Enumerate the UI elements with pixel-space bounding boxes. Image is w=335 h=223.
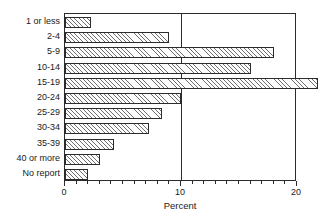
bar-row [65,78,318,89]
category-label: 20-24 [0,92,60,103]
category-label: 30-34 [0,122,60,133]
bar-row [65,32,169,43]
axis-tick-minor [192,181,193,184]
category-label: 10-14 [0,62,60,73]
bar-row [65,123,149,134]
axis-tick-minor [284,181,285,184]
bar [65,139,114,150]
bar-row [65,154,100,165]
bar [65,154,100,165]
bar-series [65,14,295,180]
axis-tick-minor [226,181,227,184]
axis-tick-label: 10 [175,187,185,197]
x-axis-title: Percent [64,200,296,211]
axis-tick-minor [273,181,274,184]
axis-tick-minor [145,181,146,184]
bar-row [65,108,162,119]
axis-tick-minor [250,181,251,184]
bar [65,123,149,134]
bar [65,93,181,104]
bar-row [65,169,88,180]
category-label: 35-39 [0,138,60,149]
bar-row [65,63,251,74]
category-label: 1 or less [0,16,60,27]
bar [65,78,318,89]
category-label: 40 or more [0,153,60,164]
bar-row [65,139,114,150]
bar [65,47,274,58]
bar [65,17,91,28]
axis-tick-major [180,181,181,186]
bar-row [65,17,91,28]
axis-tick-minor [134,181,135,184]
axis-tick-major [64,181,65,186]
axis-tick-major [296,181,297,186]
axis-tick-minor [122,181,123,184]
plot-area [64,13,296,181]
axis-tick-minor [168,181,169,184]
category-axis-labels: 1 or less2-45-910-1415-1920-2425-2930-34… [0,13,60,181]
axis-tick-label: 20 [291,187,301,197]
axis-tick-label: 0 [61,187,66,197]
axis-tick-minor [203,181,204,184]
category-label: 2-4 [0,31,60,42]
axis-tick-minor [261,181,262,184]
category-label: 25-29 [0,107,60,118]
category-label: 5-9 [0,46,60,57]
bar [65,63,251,74]
axis-tick-minor [76,181,77,184]
axis-tick-minor [215,181,216,184]
bar [65,32,169,43]
bar [65,169,88,180]
axis-tick-minor [238,181,239,184]
axis-tick-minor [87,181,88,184]
category-label: No report [0,168,60,179]
bar [65,108,162,119]
axis-tick-minor [110,181,111,184]
bar-row [65,47,274,58]
axis-tick-minor [157,181,158,184]
bar-row [65,93,181,104]
axis-tick-minor [99,181,100,184]
category-label: 15-19 [0,77,60,88]
bar-chart: 1 or less2-45-910-1415-1920-2425-2930-34… [0,0,335,223]
